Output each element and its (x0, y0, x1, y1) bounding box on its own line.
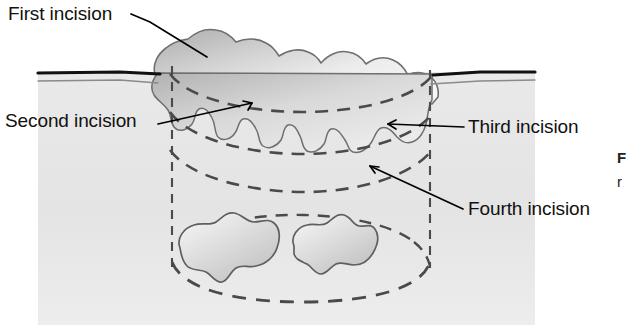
label-fourth-incision: Fourth incision (468, 199, 590, 218)
label-third-incision: Third incision (468, 117, 579, 136)
figure-canvas: First incision Second incision Third inc… (0, 0, 642, 325)
figure-caption-line-1: F (617, 150, 626, 165)
label-first-incision: First incision (8, 4, 112, 23)
label-second-incision: Second incision (5, 111, 137, 130)
figure-caption-line-2: r (617, 174, 622, 189)
surgical-diagram-illustration (0, 0, 642, 325)
